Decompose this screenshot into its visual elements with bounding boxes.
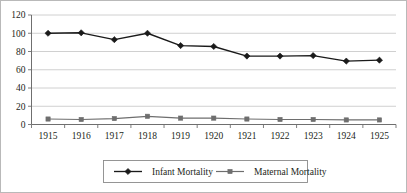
data-point-marker [111, 37, 117, 43]
y-axis-tick-label: 80 [16, 47, 26, 57]
x-axis-tick-label: 1919 [171, 131, 190, 141]
y-axis-tick-label: 120 [11, 10, 26, 20]
x-axis-tick-label: 1915 [39, 131, 58, 141]
x-axis-tick-label: 1924 [337, 131, 356, 141]
data-point-marker [178, 42, 184, 48]
x-axis-ticks [32, 125, 397, 129]
mortality-line-chart: 020406080100120 191519161917191819191920… [0, 0, 407, 193]
x-axis-tick-label: 1922 [271, 131, 290, 141]
data-point-marker [244, 53, 250, 59]
data-series-group [45, 30, 383, 122]
data-point-marker [311, 117, 315, 121]
data-point-marker [112, 116, 116, 120]
legend-square-icon [228, 169, 232, 173]
y-axis-tick-label: 0 [21, 120, 26, 130]
data-point-marker [245, 117, 249, 121]
legend-label: Maternal Mortality [254, 167, 327, 177]
data-point-marker [78, 30, 84, 36]
x-axis-tick-label: 1916 [72, 131, 91, 141]
data-point-marker [211, 43, 217, 49]
chart-canvas: 020406080100120 191519161917191819191920… [0, 0, 407, 193]
y-axis-tick-label: 20 [16, 102, 26, 112]
data-point-marker [310, 53, 316, 59]
data-point-marker [343, 58, 349, 64]
x-axis-tick-label: 1921 [237, 131, 256, 141]
x-axis-tick-label: 1920 [204, 131, 223, 141]
data-point-marker [377, 118, 381, 122]
y-axis-ticks [28, 15, 32, 125]
x-axis-tick-label: 1918 [138, 131, 157, 141]
data-point-marker [278, 117, 282, 121]
x-axis-tick-label: 1925 [370, 131, 389, 141]
data-point-marker [212, 116, 216, 120]
chart-legend: Infant MortalityMaternal Mortality [104, 161, 327, 183]
data-point-marker [79, 117, 83, 121]
x-axis-tick-label: 1917 [105, 131, 124, 141]
data-point-marker [178, 116, 182, 120]
x-axis-tick-labels: 1915191619171918191919201921192219231924… [39, 131, 390, 141]
data-point-marker [45, 30, 51, 36]
x-axis-tick-label: 1923 [304, 131, 323, 141]
series-2 [46, 114, 382, 122]
data-point-marker [144, 30, 150, 36]
data-point-marker [376, 57, 382, 63]
data-point-marker [46, 117, 50, 121]
data-point-marker [145, 114, 149, 118]
series-1 [45, 30, 383, 64]
y-axis-tick-label: 40 [16, 83, 26, 93]
legend-label: Infant Mortality [152, 167, 213, 177]
data-point-marker [344, 118, 348, 122]
y-axis-tick-labels: 020406080100120 [11, 10, 26, 129]
y-axis-tick-label: 100 [11, 29, 26, 39]
y-axis-tick-label: 60 [16, 65, 26, 75]
data-point-marker [277, 53, 283, 59]
